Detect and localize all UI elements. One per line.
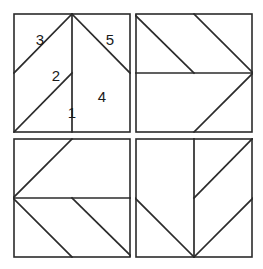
- figure-root: 3 2 1 4 5: [0, 0, 263, 269]
- panel-top-left[interactable]: 3 2 1 4 5: [13, 13, 131, 133]
- panel-top-right[interactable]: [135, 13, 253, 133]
- region-label-1: 1: [68, 104, 76, 121]
- region-label-2: 2: [52, 67, 60, 84]
- region-label-5: 5: [106, 31, 114, 48]
- region-label-3: 3: [36, 31, 44, 48]
- panel-bottom-left[interactable]: [13, 138, 131, 258]
- panel-grid: 3 2 1 4 5: [13, 13, 253, 258]
- panel-bottom-right[interactable]: [135, 138, 253, 258]
- region-label-4: 4: [98, 88, 106, 105]
